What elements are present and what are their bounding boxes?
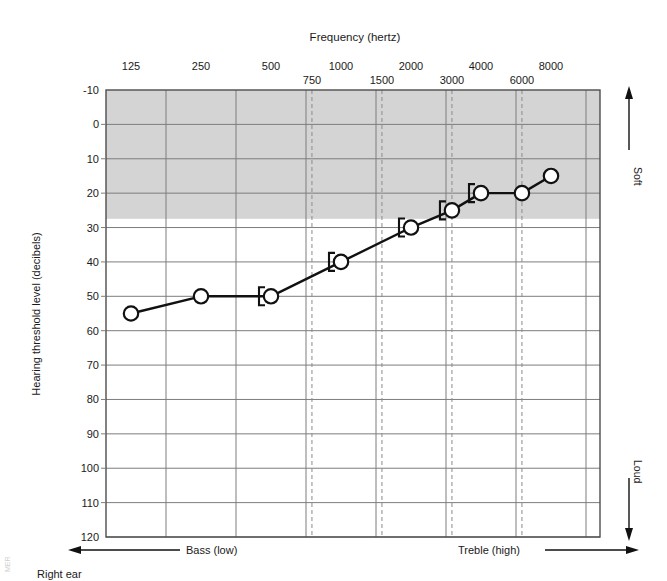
air-conduction-circle-marker: [474, 186, 488, 200]
x-tick-label-major: 8000: [539, 60, 563, 72]
y-axis-title: Hearing threshold level (decibels): [30, 232, 42, 395]
x-tick-label-major: 250: [192, 60, 210, 72]
y-tick-label: 40: [87, 256, 99, 268]
air-conduction-circle-marker: [404, 220, 418, 234]
x-tick-label-minor: 750: [303, 74, 321, 86]
y-tick-label: 50: [87, 290, 99, 302]
x-tick-label-major: 4000: [469, 60, 493, 72]
y-tick-label: 30: [87, 222, 99, 234]
audiogram-chart: Frequency (hertz) 1252505001000200040008…: [0, 0, 667, 581]
air-conduction-circle-marker: [334, 255, 348, 269]
x-tick-label-major: 1000: [329, 60, 353, 72]
air-conduction-circle-marker: [264, 289, 278, 303]
y-tick-label: -10: [83, 84, 99, 96]
soft-label: Soft: [632, 167, 644, 186]
air-conduction-circle-marker: [124, 306, 138, 320]
y-tick-label: 60: [87, 325, 99, 337]
x-tick-label-major: 125: [122, 60, 140, 72]
x-tick-label-major: 500: [262, 60, 280, 72]
y-tick-label: 110: [81, 497, 99, 509]
air-conduction-circle-marker: [194, 289, 208, 303]
chart-caption: Right ear: [37, 568, 82, 580]
bass-label: Bass (low): [186, 544, 237, 556]
loud-label: Loud: [632, 460, 644, 484]
y-tick-label: 120: [81, 531, 99, 543]
air-conduction-circle-marker: [445, 203, 459, 217]
air-conduction-circle-marker: [544, 169, 558, 183]
y-tick-label: 70: [87, 359, 99, 371]
y-tick-label: 0: [93, 118, 99, 130]
y-tick-label: 10: [87, 153, 99, 165]
y-tick-label: 80: [87, 393, 99, 405]
x-tick-label-minor: 6000: [510, 74, 534, 86]
air-conduction-circle-marker: [515, 186, 529, 200]
x-tick-label-minor: 3000: [440, 74, 464, 86]
treble-label: Treble (high): [458, 544, 520, 556]
chart-title: Frequency (hertz): [310, 31, 401, 43]
y-tick-label: 20: [87, 187, 99, 199]
credit-label: MER: [4, 556, 11, 572]
x-tick-label-minor: 1500: [370, 74, 394, 86]
x-tick-label-major: 2000: [399, 60, 423, 72]
y-tick-label: 100: [81, 462, 99, 474]
y-tick-label: 90: [87, 428, 99, 440]
